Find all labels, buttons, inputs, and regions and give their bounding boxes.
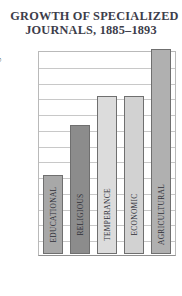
bar: TEMPERANCE (97, 96, 117, 254)
bar-category-label: ECONOMIC (130, 193, 139, 235)
bar: EDUCATIONAL (43, 175, 63, 254)
bar-category-label: TEMPERANCE (103, 188, 112, 241)
bar: RELIGIOUS (70, 125, 90, 254)
bar-series: EDUCATIONALRELIGIOUSTEMPERANCEECONOMICAG… (40, 53, 174, 254)
bar-category-label: EDUCATIONAL (49, 187, 58, 243)
chart-title-line-2: JOURNALS, 1885–1893 (0, 23, 182, 37)
chart-title: GROWTH OF SPECIALIZED JOURNALS, 1885–189… (0, 9, 182, 37)
chart-container: GROWTH OF SPECIALIZED JOURNALS, 1885–189… (0, 0, 182, 296)
bar-category-label: RELIGIOUS (76, 193, 85, 235)
bar: AGRICULTURAL (151, 49, 171, 254)
plot-area: 0102030405060708090100110120130 EDUCATIO… (38, 51, 176, 256)
y-axis-label: Percentage increase (0, 28, 1, 88)
bar: ECONOMIC (124, 96, 144, 254)
chart-title-line-1: GROWTH OF SPECIALIZED (0, 9, 182, 23)
bar-category-label: AGRICULTURAL (157, 184, 166, 245)
